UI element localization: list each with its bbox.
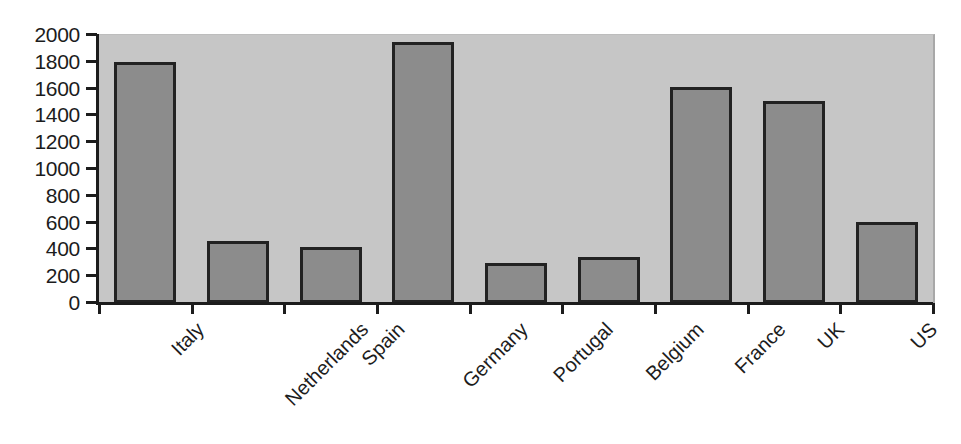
y-tick-mark [86,194,97,197]
y-tick-mark [86,167,97,170]
y-tick-label: 200 [0,265,80,286]
x-axis-label-italy: Italy [167,318,208,359]
bar-germany [392,42,454,303]
x-axis-label-france: France [731,318,791,378]
y-axis-tick-labels: 2000 1800 1600 1400 1200 1000 800 600 40… [0,24,80,314]
x-axis-label-belgium: Belgium [641,318,708,385]
bar-us [856,222,918,303]
y-tick-label: 1200 [0,131,80,152]
y-tick-mark [86,60,97,63]
y-tick-mark [86,33,97,36]
y-tick-label: 600 [0,212,80,233]
bar-belgium [578,257,640,303]
y-tick-label: 800 [0,185,80,206]
y-tick-mark [86,140,97,143]
x-axis-label-us: US [906,318,941,353]
bar-france [670,87,732,303]
x-axis-category-labels: ItalyNetherlandsSpainGermanyPortugalBelg… [0,302,961,444]
bar-spain [300,247,362,303]
bar-netherlands [207,241,269,303]
bar-portugal [485,263,547,303]
y-tick-label: 1800 [0,51,80,72]
y-tick-label: 1600 [0,78,80,99]
bar-italy [114,62,176,303]
y-tick-label: 1400 [0,104,80,125]
y-tick-mark [86,113,97,116]
x-axis-label-germany: Germany [459,318,533,392]
plot-area [99,34,935,303]
y-tick-mark [86,87,97,90]
y-tick-label: 400 [0,238,80,259]
bar-chart: 2000 1800 1600 1400 1200 1000 800 600 40… [0,0,961,444]
y-tick-label: 2000 [0,24,80,45]
y-tick-mark [86,274,97,277]
y-tick-mark [86,247,97,250]
x-axis-label-netherlands: Netherlands [281,318,373,410]
bar-uk [763,101,825,303]
x-axis-label-portugal: Portugal [549,318,617,386]
y-tick-mark [86,221,97,224]
y-tick-label: 1000 [0,158,80,179]
x-axis-label-uk: UK [813,318,848,353]
